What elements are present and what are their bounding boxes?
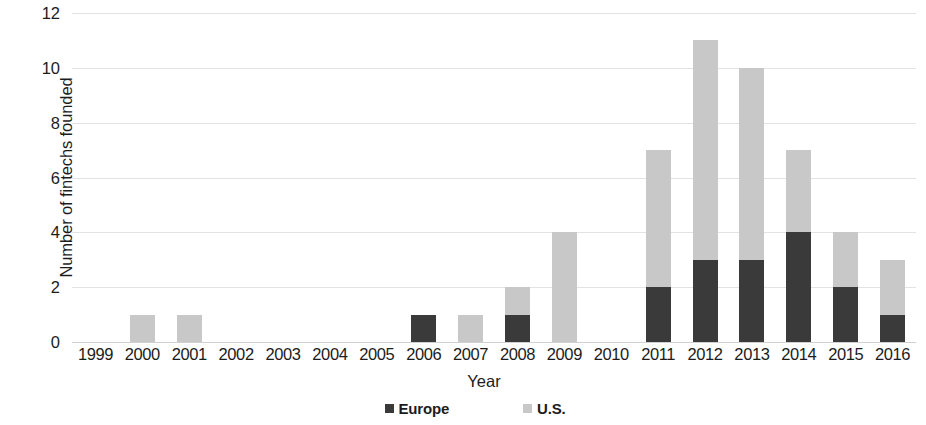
bar-slot-2009[interactable]	[541, 13, 588, 342]
bar-segment-us[interactable]	[552, 232, 577, 342]
x-axis-tick-label: 2008	[494, 345, 541, 364]
chart-legend: EuropeU.S.	[0, 400, 926, 417]
bar-segment-us[interactable]	[833, 232, 858, 287]
x-axis-tick-label: 2010	[588, 345, 635, 364]
legend-label: Europe	[399, 400, 449, 417]
legend-item[interactable]: U.S.	[523, 400, 565, 417]
x-axis-tick-label: 2012	[682, 345, 729, 364]
y-axis-tick-label: 4	[4, 223, 60, 242]
x-axis-tick-labels: 1999200020012002200320042005200620072008…	[72, 345, 916, 364]
legend-swatch-icon	[385, 404, 394, 413]
bar-slot-2006[interactable]	[400, 13, 447, 342]
stacked-bar[interactable]	[411, 315, 436, 342]
stacked-bar[interactable]	[739, 68, 764, 342]
bar-slot-2012[interactable]	[682, 13, 729, 342]
bar-segment-europe[interactable]	[693, 260, 718, 342]
bar-segment-us[interactable]	[646, 150, 671, 287]
bar-segment-europe[interactable]	[739, 260, 764, 342]
stacked-bar[interactable]	[458, 315, 483, 342]
bar-slot-2014[interactable]	[775, 13, 822, 342]
gridline	[72, 342, 916, 343]
x-axis-tick-label: 2003	[260, 345, 307, 364]
bar-segment-us[interactable]	[880, 260, 905, 315]
x-axis-tick-label: 2001	[166, 345, 213, 364]
y-axis-tick-label: 10	[4, 58, 60, 77]
x-axis-tick-label: 2004	[306, 345, 353, 364]
bar-slot-2001[interactable]	[166, 13, 213, 342]
x-axis-tick-label: 1999	[72, 345, 119, 364]
stacked-bar[interactable]	[552, 232, 577, 342]
y-axis-tick-label: 6	[4, 168, 60, 187]
y-axis-tick-label: 8	[4, 113, 60, 132]
bar-series-group	[72, 13, 916, 342]
bar-slot-1999[interactable]	[72, 13, 119, 342]
bar-segment-europe[interactable]	[786, 232, 811, 342]
bar-segment-europe[interactable]	[646, 287, 671, 342]
bar-segment-europe[interactable]	[505, 315, 530, 342]
bar-slot-2010[interactable]	[588, 13, 635, 342]
bar-segment-us[interactable]	[177, 315, 202, 342]
y-axis-tick-labels: 121086420	[0, 0, 72, 355]
x-axis-tick-label: 2002	[213, 345, 260, 364]
x-axis-tick-label: 2016	[869, 345, 916, 364]
stacked-bar[interactable]	[646, 150, 671, 342]
stacked-bar[interactable]	[693, 40, 718, 342]
bar-chart: Number of fintechs founded 121086420 199…	[0, 0, 926, 425]
bar-segment-europe[interactable]	[411, 315, 436, 342]
x-axis-tick-label: 2009	[541, 345, 588, 364]
stacked-bar[interactable]	[505, 287, 530, 342]
plot-area	[72, 13, 916, 342]
x-axis-tick-label: 2014	[775, 345, 822, 364]
bar-segment-europe[interactable]	[880, 315, 905, 342]
bar-segment-us[interactable]	[130, 315, 155, 342]
x-axis-title: Year	[0, 372, 926, 391]
stacked-bar[interactable]	[130, 315, 155, 342]
x-axis-tick-label: 2011	[635, 345, 682, 364]
y-axis-tick-label: 12	[4, 4, 60, 23]
bar-slot-2003[interactable]	[260, 13, 307, 342]
bar-slot-2000[interactable]	[119, 13, 166, 342]
bar-segment-us[interactable]	[505, 287, 530, 314]
legend-item[interactable]: Europe	[385, 400, 449, 417]
bar-segment-us[interactable]	[693, 40, 718, 259]
stacked-bar[interactable]	[177, 315, 202, 342]
x-axis-tick-label: 2013	[728, 345, 775, 364]
bar-slot-2016[interactable]	[869, 13, 916, 342]
stacked-bar[interactable]	[786, 150, 811, 342]
x-axis-tick-label: 2015	[822, 345, 869, 364]
x-axis-tick-label: 2000	[119, 345, 166, 364]
bar-slot-2015[interactable]	[822, 13, 869, 342]
bar-slot-2007[interactable]	[447, 13, 494, 342]
bar-segment-us[interactable]	[458, 315, 483, 342]
bar-slot-2008[interactable]	[494, 13, 541, 342]
legend-swatch-icon	[523, 404, 532, 413]
stacked-bar[interactable]	[833, 232, 858, 342]
bar-slot-2005[interactable]	[353, 13, 400, 342]
stacked-bar[interactable]	[880, 260, 905, 342]
y-axis-tick-label: 0	[4, 333, 60, 352]
bar-slot-2004[interactable]	[306, 13, 353, 342]
bar-slot-2002[interactable]	[213, 13, 260, 342]
bar-slot-2011[interactable]	[635, 13, 682, 342]
legend-label: U.S.	[537, 400, 565, 417]
bar-segment-us[interactable]	[786, 150, 811, 232]
bar-slot-2013[interactable]	[728, 13, 775, 342]
y-axis-tick-label: 2	[4, 278, 60, 297]
x-axis-tick-label: 2005	[353, 345, 400, 364]
bar-segment-europe[interactable]	[833, 287, 858, 342]
x-axis-tick-label: 2006	[400, 345, 447, 364]
bar-segment-us[interactable]	[739, 68, 764, 260]
x-axis-tick-label: 2007	[447, 345, 494, 364]
